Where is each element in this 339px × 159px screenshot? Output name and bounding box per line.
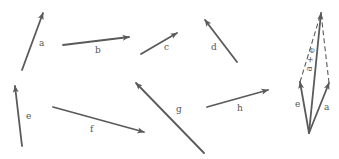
vector-label: b (95, 45, 101, 55)
vector-label: a (324, 102, 330, 112)
vector-g: g (136, 83, 204, 153)
vector-label: e (26, 111, 31, 121)
sum-e-vector: e (295, 82, 309, 133)
dash-a-to-sum-line (321, 13, 329, 83)
vector-arrow (53, 107, 144, 132)
vector-a: a (22, 13, 45, 70)
vector-label: g (176, 104, 182, 114)
vector-h: h (207, 90, 268, 113)
vector-arrow (205, 20, 237, 62)
vector-b: b (63, 37, 129, 55)
vector-label: f (90, 124, 94, 134)
vector-label: c (164, 42, 169, 52)
vector-arrow (136, 83, 204, 153)
vector-label: d (211, 42, 217, 52)
vector-label: a (39, 38, 45, 48)
vector-arrow (63, 37, 129, 45)
vector-arrow (15, 86, 22, 146)
vector-diagram: abcdefgh eaa + e (0, 0, 339, 159)
vector-sum-construction: eaa + e (295, 13, 330, 133)
vector-arrow (300, 82, 309, 133)
vector-arrow (141, 33, 177, 54)
vector-arrow (309, 13, 321, 133)
vector-label: h (237, 103, 243, 113)
vectors-group: abcdefgh (15, 13, 268, 153)
vector-c: c (141, 33, 177, 54)
vector-d: d (205, 20, 237, 62)
vector-f: f (53, 107, 144, 134)
vector-label: e (295, 99, 300, 109)
vector-e: e (15, 86, 31, 146)
